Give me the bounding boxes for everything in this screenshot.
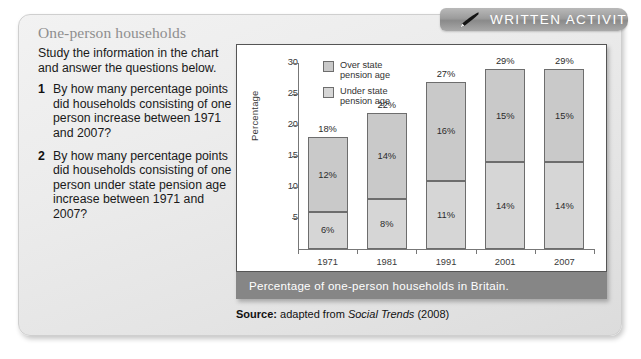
x-tick-mark	[416, 249, 417, 254]
y-tick-label: 20	[270, 119, 298, 129]
intro-text: Study the information in the chart and a…	[38, 46, 234, 75]
question-number: 1	[38, 82, 53, 140]
bar-segment-label: 15%	[496, 111, 515, 121]
written-activity-banner: WRITTEN ACTIVITY	[440, 8, 628, 31]
y-tick-label: 30	[270, 57, 298, 67]
y-tick-label: 15	[270, 150, 298, 160]
question-number: 2	[38, 149, 53, 222]
x-tick-label: 2007	[541, 257, 587, 267]
question-text: By how many percentage points did househ…	[53, 149, 234, 222]
y-tick-mark	[292, 125, 298, 126]
bar-segment-label: 11%	[437, 210, 455, 220]
bar-segment-label: 14%	[555, 201, 574, 211]
y-tick-mark	[292, 187, 298, 188]
y-tick-mark	[292, 63, 298, 64]
question-list: 1 By how many percentage points did hous…	[38, 82, 234, 221]
bar-segment-under: 8%	[367, 199, 407, 249]
pen-icon	[456, 11, 482, 29]
y-tick-mark	[292, 156, 298, 157]
bar-segment-label: 16%	[437, 126, 456, 136]
bar-segment-under: 11%	[426, 181, 466, 249]
bar-segment-label: 12%	[318, 170, 337, 180]
activity-text-column: One-person households Study the informat…	[38, 24, 234, 230]
y-tick-label: 10	[270, 181, 298, 191]
bar-total-label: 29%	[541, 56, 587, 66]
bar-segment-label: 15%	[555, 111, 574, 121]
bar-segment-over: 14%	[367, 113, 407, 200]
x-tick-label: 2001	[482, 257, 528, 267]
chart-legend: Over state pension age Under state pensi…	[323, 60, 390, 112]
bar-segment-under: 14%	[544, 162, 584, 249]
x-tick-mark	[357, 249, 358, 254]
bar-segment-label: 14%	[496, 201, 515, 211]
list-item: 1 By how many percentage points did hous…	[38, 82, 234, 140]
page-title: One-person households	[38, 24, 234, 42]
bar-segment-under: 14%	[485, 162, 525, 249]
x-tick-label: 1991	[423, 257, 469, 267]
x-tick-mark	[594, 249, 595, 254]
bar-segment-under: 6%	[308, 212, 348, 249]
screenshot-root: WRITTEN ACTIVITY One-person households S…	[0, 0, 641, 359]
legend-item-over: Over state pension age	[323, 60, 390, 80]
banner-label: WRITTEN ACTIVITY	[490, 12, 638, 27]
legend-item-under: Under state pension age	[323, 86, 390, 106]
y-axis-label: Percentage	[249, 90, 260, 141]
source-prefix: Source:	[236, 308, 277, 320]
y-tick-mark	[292, 218, 298, 219]
bar-chart: Percentage 51015202530 19711981199120012…	[236, 44, 607, 272]
legend-label: Under state pension age	[340, 86, 390, 106]
source-text: adapted from	[277, 308, 348, 320]
legend-swatch-icon	[323, 87, 334, 98]
chart-card: Percentage 51015202530 19711981199120012…	[236, 44, 607, 299]
legend-label: Over state pension age	[340, 60, 390, 80]
stacked-bar: 16%11%	[426, 63, 466, 249]
x-tick-mark	[535, 249, 536, 254]
bar-segment-over: 15%	[485, 69, 525, 162]
bar-segment-label: 14%	[377, 151, 396, 161]
stacked-bar: 15%14%	[485, 63, 525, 249]
question-text: By how many percentage points did househ…	[53, 82, 234, 140]
y-tick-mark	[292, 94, 298, 95]
bar-segment-over: 16%	[426, 82, 466, 181]
x-tick-label: 1971	[305, 257, 351, 267]
y-tick-label: 25	[270, 88, 298, 98]
source-note: Source: adapted from Social Trends (2008…	[236, 308, 449, 320]
source-suffix: (2008)	[414, 308, 449, 320]
stacked-bar: 15%14%	[544, 63, 584, 249]
source-italic: Social Trends	[348, 308, 414, 320]
bar-total-label: 18%	[305, 124, 351, 134]
bar-total-label: 27%	[423, 69, 469, 79]
x-tick-mark	[476, 249, 477, 254]
bar-segment-over: 15%	[544, 69, 584, 162]
legend-swatch-icon	[323, 61, 334, 72]
x-tick-label: 1981	[364, 257, 410, 267]
y-axis-line	[298, 63, 299, 249]
list-item: 2 By how many percentage points did hous…	[38, 149, 234, 222]
bar-total-label: 29%	[482, 56, 528, 66]
bar-segment-label: 6%	[321, 225, 334, 235]
y-tick-label: 5	[270, 212, 298, 222]
bar-segment-label: 8%	[380, 219, 393, 229]
x-axis-line	[298, 249, 594, 250]
x-tick-mark	[298, 249, 299, 254]
bar-segment-over: 12%	[308, 137, 348, 211]
chart-caption: Percentage of one-person households in B…	[236, 272, 607, 299]
